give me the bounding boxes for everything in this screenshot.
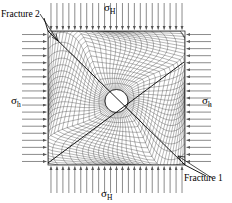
subscript-H: H [107,193,112,202]
subscript-h: h [17,100,21,109]
stress-label-sigma-H-bottom: σH [101,188,112,202]
stress-label-sigma-h-right: σh [202,95,212,109]
stress-label-sigma-h-left: σh [11,95,21,109]
wellbore-fem-mesh-figure: σH σH σh σh Fracture 2 Fracture 1 [0,0,232,203]
fracture-1-label: Fracture 1 [184,174,223,184]
stress-label-sigma-H-top: σH [104,2,115,16]
stress-arrows-left [22,35,47,162]
stress-arrows-bottom [51,167,182,194]
subscript-h: h [208,100,212,109]
stress-arrows-top [51,3,182,30]
fracture-2-label: Fracture 2 [1,10,40,20]
wellbore-hole [105,90,128,113]
subscript-H: H [110,7,115,16]
